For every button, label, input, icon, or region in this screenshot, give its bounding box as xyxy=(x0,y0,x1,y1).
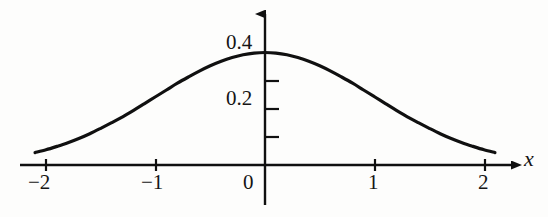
normal-distribution-figure: −2 −1 0 1 2 0.4 0.2 x xyxy=(0,0,548,217)
x-tick-label--2: −2 xyxy=(28,172,50,193)
y-tick-label-0.4: 0.4 xyxy=(226,32,252,53)
x-tick-label--1: −1 xyxy=(141,172,163,193)
plot-canvas xyxy=(0,0,548,217)
y-tick-label-0.2: 0.2 xyxy=(226,88,252,109)
y-tick-marks xyxy=(265,81,279,137)
x-tick-label-0: 0 xyxy=(243,172,254,193)
x-tick-label-2: 2 xyxy=(478,172,489,193)
x-tick-label-1: 1 xyxy=(368,172,379,193)
x-axis-label: x xyxy=(524,148,534,170)
